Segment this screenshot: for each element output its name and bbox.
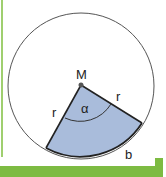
- circle-sector-diagram: M r r α b: [0, 0, 166, 177]
- right-green-tab: [154, 158, 163, 168]
- bottom-green-bar: [0, 166, 163, 177]
- left-green-line: [1, 0, 3, 168]
- radius-left-label: r: [52, 105, 57, 120]
- radius-right-label: r: [116, 89, 121, 104]
- center-point: [79, 83, 84, 88]
- center-label: M: [76, 67, 87, 82]
- angle-label: α: [81, 101, 89, 116]
- arc-label: b: [125, 147, 132, 162]
